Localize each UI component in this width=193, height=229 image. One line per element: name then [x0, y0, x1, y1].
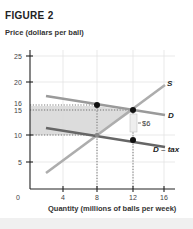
point-supply-at-8 [95, 133, 99, 137]
svg-text:5: 5 [18, 159, 22, 166]
svg-text:12: 12 [129, 194, 137, 201]
point-demand-at-12 [130, 107, 136, 113]
svg-text:4: 4 [61, 194, 65, 201]
svg-text:16: 16 [14, 100, 22, 107]
point-dtax-at-12 [130, 137, 136, 143]
svg-text:15: 15 [14, 107, 22, 114]
point-pre-tax-equilibrium [94, 102, 100, 108]
svg-text:10: 10 [14, 132, 22, 139]
svg-text:16: 16 [160, 194, 168, 201]
svg-text:0: 0 [16, 194, 20, 201]
chart-plot: 25 20 16 15 10 5 0 4 8 12 16 S D D – tax… [0, 0, 193, 229]
tax-bracket [130, 114, 141, 132]
svg-text:S: S [167, 79, 173, 88]
svg-text:8: 8 [95, 194, 99, 201]
svg-text:D: D [168, 111, 174, 120]
tax-amount-label: $6 [142, 119, 150, 128]
x-axis-label: Quantity (millions of balls per week) [48, 204, 176, 213]
svg-text:20: 20 [14, 79, 22, 86]
page-bottom-band [0, 218, 193, 229]
demand-minus-tax-curve [46, 128, 165, 147]
svg-text:25: 25 [14, 53, 22, 60]
svg-text:D – tax: D – tax [153, 145, 180, 154]
